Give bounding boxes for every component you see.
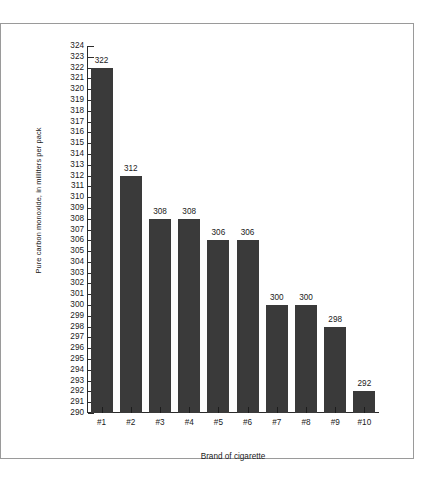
bar[interactable] bbox=[178, 219, 200, 413]
y-axis-tick-label: 319 bbox=[70, 96, 84, 104]
y-axis-tick-label: 308 bbox=[70, 215, 84, 223]
bar-base-tick bbox=[160, 407, 161, 413]
y-axis-tick-label: 294 bbox=[70, 366, 84, 374]
bar-value-label: 308 bbox=[153, 208, 167, 216]
x-axis-tick-label: #6 bbox=[243, 419, 252, 427]
bar-value-label: 312 bbox=[124, 165, 138, 173]
y-axis-tick-label: 302 bbox=[70, 279, 84, 287]
y-axis-tick-label: 307 bbox=[70, 225, 84, 233]
x-axis-tick-label: #9 bbox=[331, 419, 340, 427]
bar[interactable] bbox=[237, 240, 259, 413]
y-axis-tick-label: 304 bbox=[70, 258, 84, 266]
bar-value-label: 300 bbox=[270, 294, 284, 302]
bar-base-tick bbox=[189, 407, 190, 413]
y-axis-tick-label: 321 bbox=[70, 74, 84, 82]
y-axis-tick-label: 301 bbox=[70, 290, 84, 298]
figure-frame: Pure carbon monoxide, in milliters per p… bbox=[0, 23, 414, 459]
y-axis-tick-label: 309 bbox=[70, 204, 84, 212]
bar-value-label: 322 bbox=[95, 57, 109, 65]
y-axis-tick-label: 292 bbox=[70, 387, 84, 395]
bar-value-label: 306 bbox=[241, 229, 255, 237]
x-axis-tick-label: #8 bbox=[301, 419, 310, 427]
bar-base-tick bbox=[364, 407, 365, 413]
y-axis-tick-label: 316 bbox=[70, 128, 84, 136]
y-axis-tick-label: 305 bbox=[70, 247, 84, 255]
y-axis-tick-label: 303 bbox=[70, 269, 84, 277]
x-axis-tick-label: #10 bbox=[358, 419, 372, 427]
y-axis-tick-label: 311 bbox=[71, 182, 84, 190]
bar[interactable] bbox=[149, 219, 171, 413]
x-axis-title: Brand of cigarette bbox=[87, 452, 379, 461]
y-axis-tick-label: 317 bbox=[70, 117, 84, 125]
bar[interactable] bbox=[266, 305, 288, 413]
x-axis-tick-label: #5 bbox=[214, 419, 223, 427]
y-axis-tick-label: 320 bbox=[70, 85, 84, 93]
bar[interactable] bbox=[324, 327, 346, 413]
y-axis-tick-label: 296 bbox=[70, 344, 84, 352]
x-axis-tick-label: #7 bbox=[272, 419, 281, 427]
y-axis-tick-mark bbox=[88, 413, 94, 414]
bar[interactable] bbox=[120, 176, 142, 413]
y-axis-tick-label: 290 bbox=[70, 409, 84, 417]
bar-base-tick bbox=[102, 407, 103, 413]
bar-value-label: 308 bbox=[182, 208, 196, 216]
x-axis-tick-label: #1 bbox=[97, 419, 106, 427]
y-axis-tick-label: 313 bbox=[70, 161, 84, 169]
bar-base-tick bbox=[335, 407, 336, 413]
bar-base-tick bbox=[131, 407, 132, 413]
x-axis-tick-label: #2 bbox=[126, 419, 135, 427]
x-axis-tick-label: #4 bbox=[185, 419, 194, 427]
y-axis-title: Pure carbon monoxide, in milliters per p… bbox=[34, 111, 43, 291]
bar[interactable] bbox=[295, 305, 317, 413]
y-axis-tick-label: 323 bbox=[70, 53, 84, 61]
y-axis-tick-label: 314 bbox=[70, 150, 84, 158]
y-axis-tick-label: 324 bbox=[70, 42, 84, 50]
y-axis-tick-label: 293 bbox=[70, 377, 84, 385]
y-axis-tick-label: 315 bbox=[70, 139, 84, 147]
x-axis-tick-label: #3 bbox=[155, 419, 164, 427]
bar-chart: Pure carbon monoxide, in milliters per p… bbox=[1, 24, 413, 458]
y-axis-tick-label: 295 bbox=[70, 355, 84, 363]
y-axis-tick-label: 306 bbox=[70, 236, 84, 244]
y-axis-tick-mark bbox=[88, 57, 94, 58]
bar[interactable] bbox=[207, 240, 229, 413]
y-axis-tick-mark bbox=[88, 46, 94, 47]
y-axis-tick-label: 322 bbox=[70, 63, 84, 71]
bar-base-tick bbox=[218, 407, 219, 413]
y-axis-tick-label: 291 bbox=[70, 398, 84, 406]
plot-area: 3243233223213203193183173163153143133123… bbox=[87, 46, 379, 413]
y-axis-tick-label: 318 bbox=[70, 107, 84, 115]
bar-base-tick bbox=[248, 407, 249, 413]
y-axis-tick-label: 312 bbox=[70, 171, 84, 179]
bar-base-tick bbox=[306, 407, 307, 413]
y-axis-tick-label: 298 bbox=[70, 323, 84, 331]
bar[interactable] bbox=[91, 68, 113, 413]
y-axis-tick-label: 299 bbox=[70, 312, 84, 320]
y-axis-tick-label: 297 bbox=[70, 333, 84, 341]
bar-value-label: 298 bbox=[328, 316, 342, 324]
bar-base-tick bbox=[277, 407, 278, 413]
bar-value-label: 306 bbox=[212, 229, 226, 237]
bar-value-label: 292 bbox=[358, 380, 372, 388]
y-axis-tick-label: 310 bbox=[70, 193, 84, 201]
y-axis-tick-label: 300 bbox=[70, 301, 84, 309]
bar-value-label: 300 bbox=[299, 294, 313, 302]
